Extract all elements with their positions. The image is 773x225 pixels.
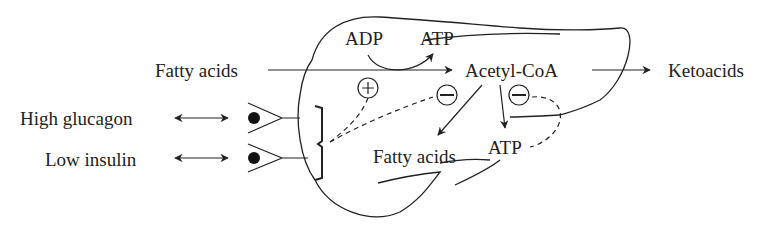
liver-ketogenesis-diagram: Fatty acids ADP ATP Acetyl-CoA Ketoacids… bbox=[0, 0, 773, 225]
acetyl-coa-label: Acetyl-CoA bbox=[465, 61, 558, 80]
adp-label: ADP bbox=[345, 29, 383, 48]
atp-bottom-label: ATP bbox=[488, 138, 522, 157]
atp-top-label: ATP bbox=[420, 29, 454, 48]
insulin-ligand-dot bbox=[248, 152, 260, 164]
activation-dashed-line bbox=[330, 98, 368, 142]
low-insulin-label: Low insulin bbox=[45, 150, 136, 169]
inhibition-dashed-line-1 bbox=[330, 97, 433, 142]
glucagon-ligand-dot bbox=[248, 112, 260, 124]
adp-to-atp-arrow bbox=[368, 54, 433, 70]
acetyl-coa-to-atp-arrow bbox=[500, 85, 505, 128]
high-glucagon-label: High glucagon bbox=[20, 109, 132, 128]
signal-bracket bbox=[315, 106, 322, 180]
fatty-acids-input-label: Fatty acids bbox=[155, 61, 238, 80]
ketoacids-label: Ketoacids bbox=[668, 61, 744, 80]
fatty-acids-output-label: Fatty acids bbox=[373, 147, 456, 166]
inhibition-dashed-line-2 bbox=[530, 97, 560, 147]
